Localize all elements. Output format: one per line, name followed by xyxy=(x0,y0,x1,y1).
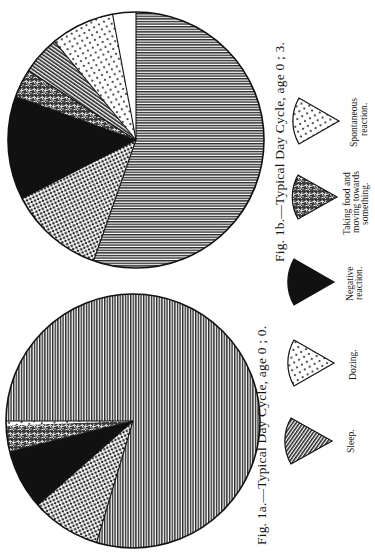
legend-item-spontaneous: Spontaneous reaction. xyxy=(293,98,369,147)
figure-title-1b: Fig. 1b.—Typical Day Cycle, age 0 ; 3. xyxy=(272,42,287,262)
legend-swatch-negative xyxy=(288,259,334,305)
legend-item-negative: Negative reaction. xyxy=(288,259,364,305)
figure-page: Fig. 1b.—Typical Day Cycle, age 0 ; 3. F… xyxy=(0,0,375,555)
figure-title-1a: Fig. 1a.—Typical Day Cycle, age 0 ; 0. xyxy=(254,326,269,545)
svg-text:reaction.: reaction. xyxy=(353,267,364,300)
legend-swatch-taking-food xyxy=(292,175,337,219)
legend-item-taking-food: Taking food and moving towards something… xyxy=(292,171,370,235)
pie-fig-1a xyxy=(6,294,260,548)
legend-item-dozing: Dozing. xyxy=(288,340,358,386)
svg-text:Dozing.: Dozing. xyxy=(347,349,358,380)
pie-fig-1b xyxy=(8,12,264,268)
svg-text:Sleep.: Sleep. xyxy=(345,429,356,453)
svg-text:reaction.: reaction. xyxy=(358,103,369,136)
legend-swatch-spontaneous xyxy=(293,98,339,144)
legend-swatch-sleep xyxy=(285,418,332,464)
svg-text:something.: something. xyxy=(359,183,370,225)
legend-swatch-dozing xyxy=(288,340,334,386)
legend-item-sleep: Sleep. xyxy=(285,418,356,464)
legend: Spontaneous reaction. Taking food and mo… xyxy=(285,98,370,464)
